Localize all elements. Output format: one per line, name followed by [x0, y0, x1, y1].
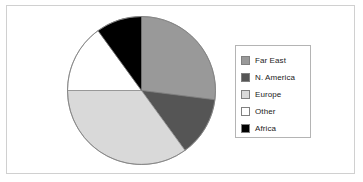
legend-swatch-icon [241, 124, 250, 133]
pie-chart [61, 10, 222, 171]
legend-item-europe[interactable]: Europe [241, 86, 310, 103]
legend-swatch-icon [241, 90, 250, 99]
legend-item-far-east[interactable]: Far East [241, 52, 310, 69]
plot-area: Far EastN. AmericaEuropeOtherAfrica [0, 0, 363, 182]
legend-swatch-icon [241, 56, 250, 65]
legend-swatch-icon [241, 73, 250, 82]
legend-item-label: Far East [255, 56, 286, 65]
legend-swatch-icon [241, 107, 250, 116]
legend-item-label: Other [255, 107, 276, 116]
legend-item-other[interactable]: Other [241, 103, 310, 120]
chart-legend: Far EastN. AmericaEuropeOtherAfrica [235, 45, 311, 138]
pie-slice-far-east[interactable] [142, 17, 216, 100]
legend-item-label: Africa [255, 124, 276, 133]
legend-item-n-america[interactable]: N. America [241, 69, 310, 86]
legend-item-africa[interactable]: Africa [241, 120, 310, 137]
pie-slices [68, 17, 216, 165]
legend-item-label: N. America [255, 73, 295, 82]
legend-item-label: Europe [255, 90, 281, 99]
chart-canvas: Far EastN. AmericaEuropeOtherAfrica [0, 0, 363, 182]
